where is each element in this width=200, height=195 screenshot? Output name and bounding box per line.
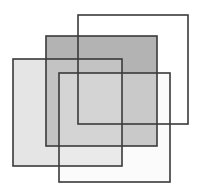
overlapping-squares-diagram (0, 0, 200, 195)
